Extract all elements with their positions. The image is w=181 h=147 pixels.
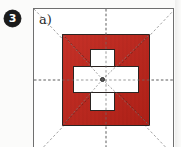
ray-to-corner-br <box>103 80 151 127</box>
center-point-marker <box>100 77 105 82</box>
sub-figure-label: a) <box>39 12 52 27</box>
paper-edge-shading <box>175 0 181 147</box>
ray-to-corner-tr <box>103 34 151 80</box>
ray-to-corner-tl <box>62 34 103 80</box>
ray-to-corner-bl <box>62 80 103 127</box>
drawing-frame: a) <box>33 8 174 147</box>
figure-root: 3 <box>0 0 181 147</box>
step-number-badge: 3 <box>4 10 21 27</box>
step-number-label: 3 <box>9 13 17 24</box>
